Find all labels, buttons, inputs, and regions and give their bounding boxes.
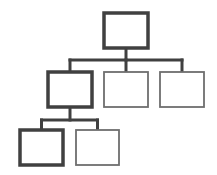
hierarchy-diagram (0, 0, 217, 175)
node-root (104, 13, 148, 48)
node-child-2 (104, 72, 148, 107)
node-grandchild-2 (76, 130, 119, 165)
node-child-1 (48, 72, 92, 107)
nodes (20, 13, 204, 165)
node-child-3 (160, 72, 204, 107)
node-grandchild-1 (20, 130, 63, 165)
